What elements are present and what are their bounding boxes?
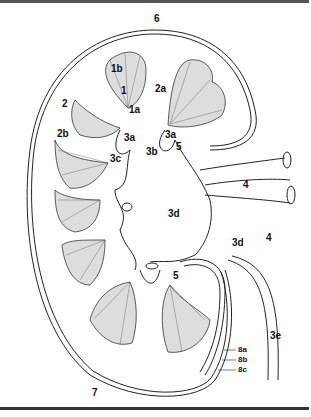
label-l5_bottom: 5: [173, 271, 179, 281]
label-l2b: 2b: [57, 129, 69, 139]
label-l8a: 8a: [238, 346, 247, 354]
label-l1: 1: [121, 86, 127, 96]
label-l5_top: 5: [176, 142, 182, 152]
label-l7: 7: [92, 388, 98, 398]
label-l8b: 8b: [238, 356, 247, 364]
label-l4_bottom: 4: [266, 233, 272, 243]
kidney-illustration: [0, 0, 311, 417]
label-l6: 6: [154, 14, 160, 24]
label-l3e: 3e: [270, 331, 281, 341]
label-l3a_right: 3a: [165, 130, 176, 140]
label-l3c: 3c: [110, 154, 121, 164]
label-l2: 2: [62, 99, 68, 109]
label-l1a: 1a: [129, 105, 140, 115]
label-l8c: 8c: [238, 366, 247, 374]
label-l3d_right: 3d: [232, 238, 244, 248]
label-l2a: 2a: [155, 84, 166, 94]
label-l3a_left: 3a: [124, 133, 135, 143]
label-l3b: 3b: [146, 147, 158, 157]
label-l4_top: 4: [243, 180, 249, 190]
label-l3d_center: 3d: [168, 209, 180, 219]
label-l1b: 1b: [111, 64, 123, 74]
